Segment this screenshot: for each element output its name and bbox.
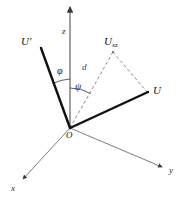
phi-arc <box>53 79 71 84</box>
vector-diagram-figure: z x y O U′ U Uxz d φ ψ <box>0 0 182 197</box>
y-axis-line <box>70 128 162 167</box>
phi-angle-label: φ <box>57 66 63 76</box>
psi-angle-label: ψ <box>75 82 81 92</box>
origin-label: O <box>66 131 73 140</box>
x-axis-line <box>23 128 70 179</box>
u-prime-vector-label: U′ <box>21 36 31 47</box>
u-xz-subscript: xz <box>112 41 118 48</box>
u-prime-vector-line <box>41 48 70 128</box>
uxz-point-marker <box>112 51 114 53</box>
u-prime-letter: U <box>21 35 29 47</box>
u-prime-mark: ′ <box>29 35 31 47</box>
z-axis-label: z <box>62 27 66 36</box>
u-vector-label: U <box>153 85 161 96</box>
axis-group <box>23 7 162 179</box>
diagram-vector-graphics <box>0 0 182 197</box>
angle-arc-group <box>53 79 91 94</box>
dashed-uxz-to-u-line <box>113 52 147 92</box>
u-xz-letter: U <box>104 35 112 47</box>
vector-group <box>41 48 148 128</box>
distance-d-label: d <box>82 63 87 72</box>
u-vector-line <box>70 92 148 128</box>
x-axis-label: x <box>11 184 15 193</box>
y-axis-label: y <box>169 166 173 175</box>
u-xz-projection-label: Uxz <box>104 36 118 49</box>
